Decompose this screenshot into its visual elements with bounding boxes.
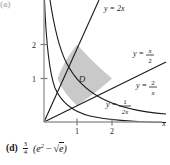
svg-text:x: x [150,89,155,97]
svg-text:2: 2 [148,57,152,65]
answer-line: (d) 3 4 (e2−√e) [6,141,67,155]
svg-text:2: 2 [151,79,155,87]
svg-text:1: 1 [123,98,127,106]
answer-tag: (d) [6,143,18,153]
svg-text:2x: 2x [122,108,130,116]
svg-text:x: x [147,47,152,55]
answer-expression: (e2−√e) [33,142,67,154]
figure-page: (a) 1 2 1 2 x D y = 2x y [0,0,170,165]
x-tick-label-2: 2 [110,127,114,136]
math-figure-graph: 1 2 1 2 x D y = 2x y = x 2 y = 2 x y = 1 [0,0,170,138]
label-y-equals-1-over-2x: y = 1 2x [105,98,131,116]
region-d-label: D [78,74,86,84]
y-tick-label-2: 2 [32,41,36,50]
y-tick-label-1: 1 [32,75,36,84]
answer-coefficient-numerator: 3 [23,141,28,148]
x-axis-label: x [161,119,166,128]
answer-minus-sign: − [44,143,54,154]
answer-close-paren: ) [64,143,67,154]
svg-text:y =: y = [132,49,144,58]
label-y-equals-x-over-2: y = x 2 [132,47,154,65]
label-y-equals-2-over-x: y = 2 x [135,79,157,97]
answer-coefficient-fraction: 3 4 [23,141,28,155]
answer-coefficient-denominator: 4 [23,148,28,156]
svg-text:y =: y = [105,100,117,109]
x-tick-label-1: 1 [75,127,79,136]
label-y-equals-2x: y = 2x [103,4,125,13]
svg-text:y =: y = [135,81,147,90]
